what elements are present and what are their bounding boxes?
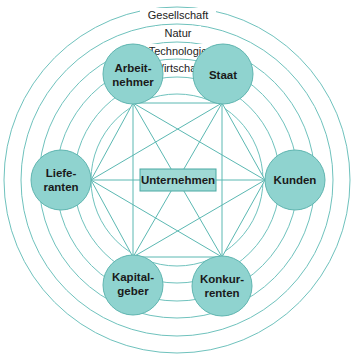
node-kunden-label: Kunden bbox=[274, 174, 317, 186]
node-staat-label: Staat bbox=[209, 69, 237, 81]
node-arbeitnehmer-line1: Arbeit- bbox=[114, 62, 151, 74]
node-lieferanten-line1: Liefe- bbox=[46, 167, 77, 179]
node-kapitalgeber: Kapital- geber bbox=[103, 255, 163, 315]
node-staat: Staat bbox=[193, 44, 253, 104]
ring-label-technologie: Technologie bbox=[149, 45, 208, 57]
node-konkurrenten-line1: Konkur- bbox=[200, 273, 244, 285]
ring-label-natur: Natur bbox=[165, 27, 192, 39]
node-kapitalgeber-line1: Kapital- bbox=[112, 271, 154, 283]
center-label: Unternehmen bbox=[141, 174, 215, 186]
center-node-unternehmen: Unternehmen bbox=[140, 169, 216, 191]
node-arbeitnehmer: Arbeit- nehmer bbox=[103, 44, 163, 104]
node-lieferanten: Liefe- ranten bbox=[31, 150, 91, 210]
node-kunden: Kunden bbox=[265, 150, 325, 210]
node-kapitalgeber-line2: geber bbox=[117, 285, 149, 297]
node-konkurrenten-line2: renten bbox=[204, 287, 239, 299]
node-arbeitnehmer-line2: nehmer bbox=[112, 76, 154, 88]
node-lieferanten-line2: ranten bbox=[43, 181, 78, 193]
node-konkurrenten: Konkur- renten bbox=[192, 256, 252, 316]
ring-label-gesellschaft: Gesellschaft bbox=[148, 9, 209, 21]
stakeholder-diagram: Gesellschaft Natur Technologie Wirtschaf… bbox=[0, 0, 354, 354]
